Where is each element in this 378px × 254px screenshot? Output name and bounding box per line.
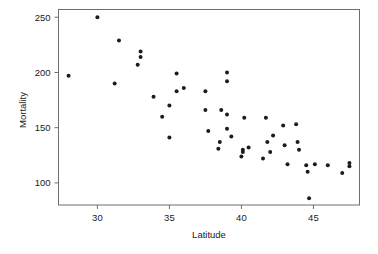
data-point bbox=[67, 74, 71, 78]
data-point bbox=[225, 70, 229, 74]
x-tick-label: 30 bbox=[92, 212, 103, 223]
y-tick-label: 250 bbox=[35, 12, 51, 23]
data-point bbox=[225, 127, 229, 131]
x-tick-label: 40 bbox=[236, 212, 247, 223]
data-point bbox=[297, 148, 301, 152]
data-point bbox=[304, 163, 308, 167]
y-axis-title: Mortality bbox=[17, 92, 28, 128]
data-point bbox=[268, 150, 272, 154]
data-point bbox=[225, 112, 229, 116]
plot-canvas: 30354045 100150200250 Latitude Mortality bbox=[0, 0, 378, 254]
data-point bbox=[206, 129, 210, 133]
data-point bbox=[264, 116, 268, 120]
data-point bbox=[265, 140, 269, 144]
data-point bbox=[261, 157, 265, 161]
data-point bbox=[136, 63, 140, 67]
data-point bbox=[117, 38, 121, 42]
x-tick-label: 45 bbox=[308, 212, 319, 223]
data-point bbox=[247, 146, 251, 150]
x-axis-tick-labels: 30354045 bbox=[92, 212, 319, 223]
data-point bbox=[218, 140, 222, 144]
x-axis-ticks bbox=[97, 205, 313, 209]
data-point bbox=[271, 133, 275, 137]
data-point bbox=[113, 82, 117, 86]
data-point bbox=[203, 108, 207, 112]
data-point bbox=[281, 123, 285, 127]
y-axis-tick-labels: 100150200250 bbox=[35, 12, 51, 189]
data-point bbox=[139, 55, 143, 59]
data-point bbox=[160, 115, 164, 119]
data-point bbox=[139, 49, 143, 53]
data-point bbox=[203, 89, 207, 93]
data-point bbox=[239, 154, 243, 158]
data-point bbox=[347, 161, 351, 165]
data-point bbox=[283, 143, 287, 147]
data-point bbox=[242, 116, 246, 120]
axes-frame bbox=[59, 10, 360, 206]
data-point bbox=[306, 170, 310, 174]
data-point bbox=[175, 89, 179, 93]
data-points-layer bbox=[67, 15, 352, 200]
data-point bbox=[152, 95, 156, 99]
data-point bbox=[296, 140, 300, 144]
x-axis-title: Latitude bbox=[192, 229, 226, 240]
data-point bbox=[241, 150, 245, 154]
data-point bbox=[340, 171, 344, 175]
data-point bbox=[307, 196, 311, 200]
data-point bbox=[182, 86, 186, 90]
data-point bbox=[175, 72, 179, 76]
y-tick-label: 100 bbox=[35, 177, 51, 188]
y-tick-label: 200 bbox=[35, 67, 51, 78]
y-axis-ticks bbox=[55, 17, 59, 183]
scatter-plot-figure: 30354045 100150200250 Latitude Mortality bbox=[0, 0, 378, 254]
data-point bbox=[95, 15, 99, 19]
data-point bbox=[219, 108, 223, 112]
data-point bbox=[167, 136, 171, 140]
data-point bbox=[225, 79, 229, 83]
data-point bbox=[167, 104, 171, 108]
data-point bbox=[285, 162, 289, 166]
y-tick-label: 150 bbox=[35, 122, 51, 133]
data-point bbox=[326, 163, 330, 167]
data-point bbox=[216, 147, 220, 151]
x-tick-label: 35 bbox=[164, 212, 175, 223]
data-point bbox=[229, 135, 233, 139]
data-point bbox=[313, 162, 317, 166]
plot-frame bbox=[59, 10, 360, 206]
data-point bbox=[294, 122, 298, 126]
